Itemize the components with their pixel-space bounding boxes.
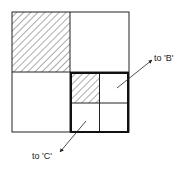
label-to-b: to 'B'	[154, 53, 174, 63]
shaded-quadrant-top-left	[12, 12, 70, 72]
quadtree-diagram: to 'B' to 'C'	[0, 0, 189, 174]
label-to-c: to 'C'	[32, 151, 52, 161]
shaded-subquadrant	[71, 73, 100, 103]
arrow-to-c	[60, 121, 86, 152]
